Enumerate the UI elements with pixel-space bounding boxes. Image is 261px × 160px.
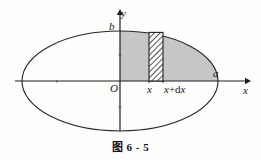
strip-right-dx: x xyxy=(181,83,186,95)
figure-caption: 图 6 - 5 xyxy=(0,138,261,154)
semi-minor-axis-label: b xyxy=(109,21,115,32)
x-axis-label: x xyxy=(243,85,248,96)
element-strip-rect xyxy=(149,32,163,81)
ellipse-integration-diagram xyxy=(0,0,261,160)
origin-label: O xyxy=(110,83,118,94)
semi-major-axis-label: a xyxy=(213,68,219,79)
strip-left-label: x xyxy=(147,84,152,95)
strip-right-label: x+dx xyxy=(164,84,186,95)
figure-container: y b O x x+dx a x 图 6 - 5 xyxy=(0,0,261,160)
y-axis-label: y xyxy=(121,8,126,19)
